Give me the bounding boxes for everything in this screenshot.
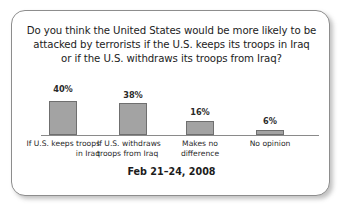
bar-value-label: 16% xyxy=(165,107,235,117)
bar-category-label: Makes no difference xyxy=(165,139,235,158)
bar-group-no-opinion: 6% No opinion xyxy=(235,11,305,166)
poll-chart-card: Do you think the United States would be … xyxy=(11,10,330,196)
bar-group-keeps-troops: 40% If U.S. keeps troops in Iraq xyxy=(28,11,98,166)
bar-category-label: No opinion xyxy=(235,139,305,149)
bar-rect xyxy=(256,130,284,135)
bar-rect xyxy=(119,103,147,135)
bar-value-label: 40% xyxy=(28,84,98,94)
bar-value-label: 6% xyxy=(235,116,305,126)
bar-category-label: If U.S. withdraws troops from Iraq xyxy=(97,139,173,158)
bar-category-line-1: No opinion xyxy=(235,139,305,149)
bar-category-line-2: difference xyxy=(165,149,235,159)
chart-date-caption: Feb 21–24, 2008 xyxy=(12,166,331,177)
bar-category-line-2: in Iraq xyxy=(24,149,100,159)
bar-rect xyxy=(186,121,214,135)
bar-rect xyxy=(49,101,77,135)
bar-category-line-2: troops from Iraq xyxy=(97,149,173,159)
bar-value-label: 38% xyxy=(98,90,168,100)
bar-category-line-1: If U.S. keeps troops xyxy=(24,139,100,149)
bar-group-withdraws-troops: 38% If U.S. withdraws troops from Iraq xyxy=(98,11,168,166)
bar-category-label: If U.S. keeps troops in Iraq xyxy=(24,139,100,158)
bar-category-line-1: If U.S. withdraws xyxy=(97,139,173,149)
bar-group-makes-no-difference: 16% Makes no difference xyxy=(165,11,235,166)
bar-category-line-1: Makes no xyxy=(165,139,235,149)
